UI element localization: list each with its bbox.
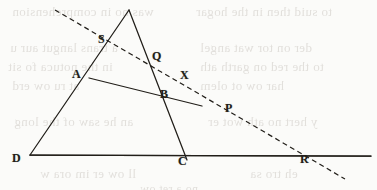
point-label-X: X (180, 69, 189, 81)
segment-ray-D-through-B-and-P-to-base-right (30, 155, 371, 156)
segment-side-apex-to-C-through-Q-and-B (129, 10, 187, 160)
point-label-C: C (178, 155, 187, 167)
point-label-D: D (12, 152, 21, 164)
segment-segment-A-through-B-to-X-side (89, 78, 202, 106)
segment-side-D-to-apex-through-A-and-S (30, 10, 129, 155)
point-label-A: A (72, 68, 81, 80)
point-label-R: R (300, 153, 309, 165)
point-label-P: P (225, 102, 232, 114)
figure-page: was no in comprehensionto suid then in t… (0, 0, 377, 190)
point-label-Q: Q (152, 50, 161, 62)
point-label-B: B (160, 88, 168, 100)
geometry-figure (0, 0, 377, 190)
solid-line-group (30, 10, 371, 160)
point-label-S: S (98, 33, 105, 45)
